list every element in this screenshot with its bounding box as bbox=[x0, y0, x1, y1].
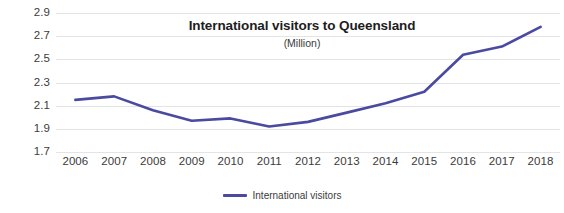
y-axis-tick-label: 1.7 bbox=[6, 146, 50, 158]
y-axis-tick-label: 1.9 bbox=[6, 123, 50, 135]
line-chart: International visitors to Queensland (Mi… bbox=[0, 0, 564, 213]
y-axis-tick-label: 2.9 bbox=[6, 7, 50, 19]
x-axis-tick-label: 2017 bbox=[489, 156, 515, 168]
x-axis-tick-label: 2009 bbox=[179, 156, 205, 168]
y-axis-tick-label: 2.5 bbox=[6, 54, 50, 66]
x-axis-tick-label: 2008 bbox=[140, 156, 166, 168]
x-axis-tick-label: 2010 bbox=[217, 156, 243, 168]
legend-swatch-international-visitors bbox=[223, 194, 247, 197]
x-axis-tick-label: 2016 bbox=[450, 156, 476, 168]
x-axis-tick-label: 2007 bbox=[101, 156, 127, 168]
x-axis-tick-label: 2006 bbox=[62, 156, 88, 168]
x-axis-tick-label: 2018 bbox=[528, 156, 554, 168]
chart-legend: International visitors bbox=[0, 190, 564, 201]
x-axis-tick-label: 2015 bbox=[411, 156, 437, 168]
x-axis-tick-label: 2012 bbox=[295, 156, 321, 168]
series-line-international-visitors bbox=[56, 13, 560, 152]
y-axis: 1.71.92.12.32.52.72.9 bbox=[0, 13, 50, 152]
data-line bbox=[75, 27, 540, 127]
legend-label-international-visitors: International visitors bbox=[253, 190, 342, 201]
gridline bbox=[56, 152, 560, 153]
plot-area bbox=[56, 13, 560, 152]
x-axis-tick-label: 2011 bbox=[257, 156, 282, 168]
x-axis-tick-label: 2014 bbox=[373, 156, 399, 168]
y-axis-tick-label: 2.3 bbox=[6, 77, 50, 89]
x-axis-tick-label: 2013 bbox=[334, 156, 360, 168]
y-axis-tick-label: 2.1 bbox=[6, 100, 50, 112]
y-axis-tick-label: 2.7 bbox=[6, 30, 50, 42]
x-axis: 2006200720082009201020112012201320142015… bbox=[56, 156, 560, 174]
